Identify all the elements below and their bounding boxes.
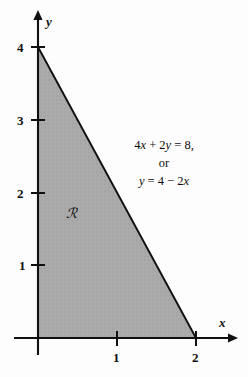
- region-label: ℛ: [66, 207, 77, 221]
- equation-plus-two: + 2: [146, 138, 166, 152]
- equation-annotation: 4x + 2y = 8, or y = 4 − 2x: [112, 136, 216, 190]
- y-axis-arrowhead: [33, 10, 42, 20]
- x-tick-label-1: 1: [113, 351, 120, 364]
- figure-region-plot: 4 3 2 1 1 2 y x ℛ 4x + 2y = 8, or y = 4 …: [0, 0, 248, 377]
- equation-line-1: 4x + 2y = 8,: [112, 136, 216, 154]
- y-tick-label-3: 3: [17, 114, 24, 127]
- equation-solved-variable-x: x: [184, 174, 190, 188]
- x-tick-label-2: 2: [192, 351, 199, 364]
- equation-solved-body: = 4 − 2: [144, 174, 183, 188]
- y-tick-label-4: 4: [17, 41, 24, 54]
- x-axis-arrowhead: [228, 333, 238, 342]
- equation-equals-eight: = 8,: [171, 138, 194, 152]
- x-axis-label: x: [219, 316, 226, 329]
- y-axis-label: y: [46, 15, 52, 28]
- equation-line-3: y = 4 − 2x: [112, 172, 216, 190]
- y-tick-label-1: 1: [19, 259, 26, 272]
- y-tick-label-2: 2: [17, 187, 24, 200]
- equation-line-2-or: or: [112, 154, 216, 172]
